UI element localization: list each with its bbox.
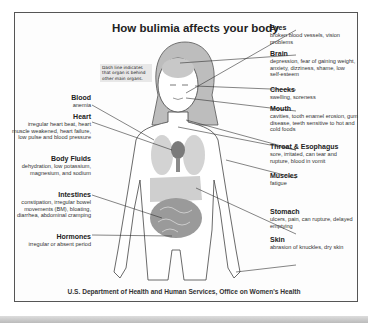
source-credit: U.S. Department of Health and Human Serv… bbox=[0, 288, 368, 295]
label-detail: cavities, tooth enamel erosion, gum dise… bbox=[270, 113, 360, 133]
label-heading: Hormones bbox=[11, 233, 91, 241]
label-muscles: Muscles fatigue bbox=[270, 172, 356, 187]
label-detail: anemia bbox=[11, 102, 91, 109]
label-heading: Skin bbox=[270, 236, 356, 244]
label-heading: Body Fluids bbox=[21, 155, 91, 163]
label-heading: Throat & Esophagus bbox=[270, 143, 356, 151]
label-heading: Heart bbox=[11, 113, 91, 121]
label-detail: broken blood vessels, vision problems bbox=[270, 32, 356, 45]
label-detail: ulcers, pain, can rupture, delayed empty… bbox=[270, 216, 356, 229]
label-heading: Stomach bbox=[270, 208, 356, 216]
label-blood: Blood anemia bbox=[11, 94, 91, 109]
label-intestines: Intestines constipation, irregular bowel… bbox=[17, 191, 91, 219]
label-mouth: Mouth cavities, tooth enamel erosion, gu… bbox=[270, 105, 360, 133]
label-detail: irregular or absent period bbox=[11, 241, 91, 248]
label-cheeks: Cheeks swelling, soreness bbox=[270, 86, 356, 101]
label-heading: Eyes bbox=[270, 24, 356, 32]
label-eyes: Eyes broken blood vessels, vision proble… bbox=[270, 24, 356, 45]
label-hormones: Hormones irregular or absent period bbox=[11, 233, 91, 248]
label-heading: Muscles bbox=[270, 172, 356, 180]
label-detail: constipation, irregular bowel movements … bbox=[17, 199, 91, 219]
label-detail: dehydration, low potassium, magnesium, a… bbox=[21, 163, 91, 176]
label-brain: Brain depression, fear of gaining weight… bbox=[270, 50, 356, 78]
label-detail: abrasion of knuckles, dry skin bbox=[270, 244, 356, 251]
label-detail: fatigue bbox=[270, 180, 356, 187]
label-heading: Intestines bbox=[17, 191, 91, 199]
label-detail: swelling, soreness bbox=[270, 94, 356, 101]
dash-line-note: Dash line indicates that organ is behind… bbox=[100, 64, 152, 82]
label-skin: Skin abrasion of knuckles, dry skin bbox=[270, 236, 356, 251]
label-heading: Cheeks bbox=[270, 86, 356, 94]
label-heading: Brain bbox=[270, 50, 356, 58]
label-stomach: Stomach ulcers, pain, can rupture, delay… bbox=[270, 208, 356, 229]
diagram-title: How bulimia affects your body bbox=[112, 22, 279, 34]
label-throat-esophagus: Throat & Esophagus sore, irritated, can … bbox=[270, 143, 356, 164]
label-detail: irregular heart beat, heart muscle weake… bbox=[11, 121, 91, 141]
label-heading: Mouth bbox=[270, 105, 360, 113]
label-body-fluids: Body Fluids dehydration, low potassium, … bbox=[21, 155, 91, 176]
label-detail: depression, fear of gaining weight, anxi… bbox=[270, 58, 356, 78]
label-detail: sore, irritated, can tear and rupture, b… bbox=[270, 151, 356, 164]
label-heading: Blood bbox=[11, 94, 91, 102]
label-heart: Heart irregular heart beat, heart muscle… bbox=[11, 113, 91, 141]
bottom-edge bbox=[0, 316, 368, 323]
